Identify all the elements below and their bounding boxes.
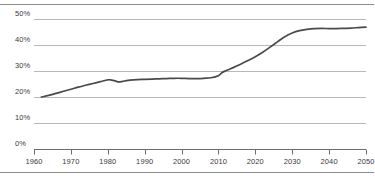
- x-axis-label-1980: 1980: [99, 157, 116, 166]
- x-axis-label-2020: 2020: [247, 157, 264, 166]
- x-axis-label-2050: 2050: [357, 157, 374, 166]
- bottom-divider-rule: [0, 172, 374, 173]
- chart-plot-svg: [0, 10, 374, 170]
- line-chart: 0%10%20%30%40%50% 1960197019801990200020…: [0, 10, 374, 170]
- x-axis-label-1960: 1960: [25, 157, 42, 166]
- gridlines: [34, 20, 366, 150]
- x-axis-label-2040: 2040: [321, 157, 338, 166]
- x-axis-label-2000: 2000: [173, 157, 190, 166]
- x-axis-label-2030: 2030: [284, 157, 301, 166]
- x-axis-label-1970: 1970: [62, 157, 79, 166]
- y-axis-label-20%: 20%: [15, 87, 30, 96]
- y-axis-label-50%: 50%: [15, 9, 30, 18]
- y-axis-label-0%: 0%: [15, 139, 26, 148]
- data-series-line: [41, 27, 366, 97]
- y-axis-label-40%: 40%: [15, 35, 30, 44]
- x-axis-ticks: [35, 150, 367, 155]
- top-divider-rule: [0, 4, 374, 5]
- y-axis-label-30%: 30%: [15, 61, 30, 70]
- x-axis-label-2010: 2010: [210, 157, 227, 166]
- y-axis-label-10%: 10%: [15, 113, 30, 122]
- x-axis-label-1990: 1990: [136, 157, 153, 166]
